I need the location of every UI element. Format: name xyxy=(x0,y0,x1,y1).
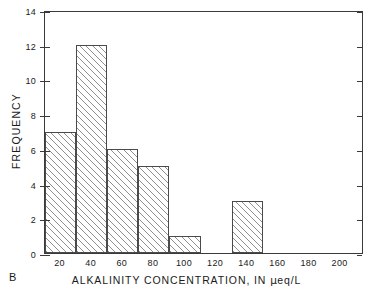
x-tick-label: 40 xyxy=(85,258,96,268)
y-tick-label: 14 xyxy=(26,7,36,17)
y-tick-label: 0 xyxy=(31,250,36,260)
y-axis-title: FREQUENCY xyxy=(10,66,22,196)
x-tick-label: 180 xyxy=(300,258,316,268)
bar xyxy=(45,132,76,254)
y-tick-mark-inner xyxy=(45,220,50,221)
y-tick-mark-right xyxy=(357,47,362,48)
y-tick-label: 10 xyxy=(26,76,36,86)
y-tick-mark-right xyxy=(357,186,362,187)
bar xyxy=(138,166,169,253)
y-tick-mark-right xyxy=(357,151,362,152)
bar xyxy=(107,149,138,253)
y-tick-mark-inner xyxy=(45,116,50,117)
y-tick-label: 6 xyxy=(31,146,36,156)
y-tick-mark-right xyxy=(357,81,362,82)
y-tick-mark-inner xyxy=(45,12,50,13)
histogram-figure: FREQUENCY 02468101214 ALKALINITY CONCENT… xyxy=(0,0,373,294)
x-tick-label: 120 xyxy=(207,258,223,268)
bar xyxy=(76,45,107,253)
x-axis-title-text: ALKALINITY CONCENTRATION, IN xyxy=(72,274,270,286)
y-tick-mark-inner xyxy=(45,186,50,187)
x-tick-label: 200 xyxy=(332,258,348,268)
x-tick-label: 80 xyxy=(148,258,159,268)
x-tick-label: 160 xyxy=(269,258,285,268)
y-tick-mark-inner xyxy=(45,151,50,152)
y-tick-mark-inner xyxy=(45,81,50,82)
y-tick-mark-right xyxy=(357,255,362,256)
x-axis-title-units: eq/L xyxy=(277,274,301,286)
y-tick-mark-right xyxy=(357,12,362,13)
y-tick-mark-right xyxy=(357,116,362,117)
y-tick-label: 8 xyxy=(31,111,36,121)
y-tick-label: 12 xyxy=(26,42,36,52)
bar xyxy=(232,201,263,253)
x-axis-title: ALKALINITY CONCENTRATION, IN μeq/L xyxy=(0,274,373,286)
y-tick-label: 4 xyxy=(31,181,36,191)
x-tick-label: 20 xyxy=(54,258,65,268)
x-tick-label: 100 xyxy=(176,258,192,268)
y-tick-mark-inner xyxy=(45,255,50,256)
bar-series xyxy=(45,12,362,253)
bar xyxy=(169,236,200,253)
y-tick-mark-inner xyxy=(45,47,50,48)
plot-area: 02468101214 xyxy=(44,11,363,254)
x-tick-label: 60 xyxy=(116,258,127,268)
x-tick-label: 140 xyxy=(238,258,254,268)
y-tick-label: 2 xyxy=(31,215,36,225)
panel-label: B xyxy=(9,271,16,283)
y-tick-mark-right xyxy=(357,220,362,221)
